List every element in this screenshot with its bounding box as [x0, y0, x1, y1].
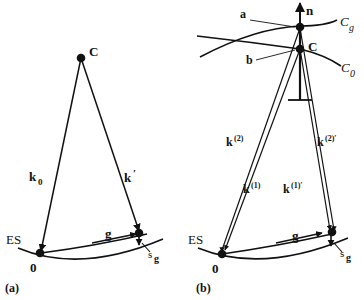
caption-panel-b: (b) — [196, 281, 211, 295]
label-k2p-sup: (2)′ — [325, 134, 337, 143]
reciprocal-chord-b — [222, 234, 332, 254]
label-sg-sub-b: g — [346, 252, 351, 263]
label-vector-sg-b: s g — [340, 247, 351, 263]
label-k2p-base: k — [317, 135, 324, 149]
point-c-b — [296, 45, 305, 54]
label-k1p-base: k — [283, 182, 290, 196]
label-point-b: b — [246, 53, 253, 67]
label-sg-base-a: s — [148, 248, 152, 260]
label-vector-k1-b: k (1) — [243, 181, 261, 196]
diagram-svg: C ES 0 k 0 k ′ g s g (a) — [0, 0, 364, 300]
vector-k0-a — [41, 58, 81, 251]
label-cg-sub: g — [349, 22, 354, 33]
label-vector-k2-prime-b: k (2)′ — [317, 134, 337, 149]
label-vector-k2-b: k (2) — [226, 134, 244, 149]
label-vector-g-b: g — [292, 228, 299, 243]
label-kprime-base: k — [124, 170, 132, 185]
label-k1p-sup: (1)′ — [291, 181, 303, 190]
panel-a: C ES 0 k 0 k ′ g s g (a) — [5, 44, 163, 295]
label-point-c-b: C — [308, 39, 317, 54]
label-c0-sub: 0 — [350, 68, 355, 79]
label-vector-g-a: g — [105, 226, 112, 241]
label-k2-sup: (2) — [234, 134, 244, 143]
label-vector-k0-a: k 0 — [29, 169, 43, 187]
label-es-a: ES — [6, 232, 21, 247]
point-origin-a — [36, 249, 45, 258]
panel-b: n a b C C g C 0 k (2) k (2)′ k (1) — [188, 3, 355, 295]
point-a-b — [296, 23, 305, 32]
dispersion-surface-c0-curve — [197, 36, 341, 66]
label-k2-base: k — [226, 135, 233, 149]
label-point-a: a — [240, 7, 246, 21]
label-vector-kprime-a: k ′ — [124, 167, 136, 185]
label-k0-base: k — [29, 169, 37, 184]
label-es-b: ES — [188, 232, 203, 247]
leader-point-a — [250, 20, 295, 27]
label-origin-a: 0 — [30, 260, 37, 275]
label-k0-sub: 0 — [38, 177, 43, 187]
label-dispersion-c0: C 0 — [341, 60, 355, 79]
label-vector-n-b: n — [306, 3, 314, 18]
caption-panel-a: (a) — [5, 281, 19, 295]
figure-container: C ES 0 k 0 k ′ g s g (a) — [0, 0, 364, 300]
label-c0-base: C — [341, 60, 350, 75]
label-vector-k1-prime-b: k (1)′ — [283, 181, 303, 196]
label-dispersion-cg: C g — [340, 14, 354, 33]
label-kprime-sup: ′ — [133, 167, 136, 179]
label-sg-sub-a: g — [154, 253, 159, 264]
label-cg-base: C — [340, 14, 349, 29]
vector-kprime-a — [81, 58, 139, 231]
point-c-a — [77, 54, 86, 63]
label-k1-base: k — [243, 182, 250, 196]
label-k1-sup: (1) — [251, 181, 261, 190]
label-vector-sg-a: s g — [148, 248, 159, 264]
point-origin-b — [218, 250, 227, 259]
label-point-c-a: C — [89, 44, 98, 59]
label-origin-b: 0 — [212, 261, 219, 276]
label-sg-base-b: s — [340, 247, 344, 259]
point-diffracted-spot-a — [135, 229, 144, 238]
point-diffracted-spot-b — [328, 228, 337, 237]
vector-k1-b — [225, 49, 300, 250]
